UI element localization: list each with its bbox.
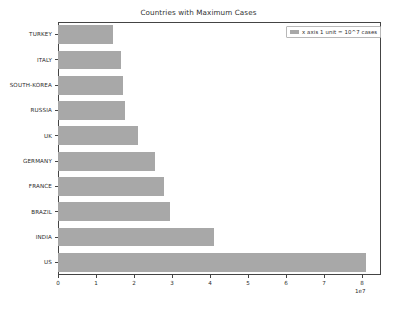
x-tick-mark — [248, 275, 249, 278]
y-tick-mark — [55, 211, 58, 212]
y-tick-mark — [55, 237, 58, 238]
y-tick-mark — [55, 186, 58, 187]
y-tick-mark — [55, 85, 58, 86]
y-tick-label-india: INDIA — [0, 234, 52, 240]
x-tick-label-6: 6 — [276, 280, 296, 286]
y-tick-label-us: US — [0, 259, 52, 265]
x-tick-mark — [58, 275, 59, 278]
y-tick-mark — [55, 34, 58, 35]
x-tick-mark — [362, 275, 363, 278]
x-tick-label-0: 0 — [48, 280, 68, 286]
x-tick-label-4: 4 — [200, 280, 220, 286]
y-tick-label-russia: RUSSIA — [0, 107, 52, 113]
chart-legend: x axis 1 unit = 10^7 cases — [286, 26, 381, 38]
x-tick-mark — [172, 275, 173, 278]
x-tick-label-5: 5 — [238, 280, 258, 286]
y-tick-mark — [55, 110, 58, 111]
y-tick-label-germany: GERMANY — [0, 158, 52, 164]
legend-swatch-icon — [290, 30, 299, 34]
chart-title: Countries with Maximum Cases — [0, 8, 397, 17]
y-tick-label-uk: UK — [0, 133, 52, 139]
x-tick-mark — [210, 275, 211, 278]
y-tick-label-italy: ITALY — [0, 57, 52, 63]
x-tick-label-2: 2 — [124, 280, 144, 286]
chart-figure: Countries with Maximum Cases TURKEYITALY… — [0, 0, 397, 311]
y-tick-mark — [55, 59, 58, 60]
y-tick-mark — [55, 262, 58, 263]
x-tick-mark — [96, 275, 97, 278]
x-tick-label-7: 7 — [314, 280, 334, 286]
x-tick-label-8: 8 — [352, 280, 372, 286]
x-axis-offset-label: 1e7 — [355, 288, 366, 294]
x-tick-mark — [286, 275, 287, 278]
x-tick-mark — [134, 275, 135, 278]
y-tick-mark — [55, 135, 58, 136]
x-tick-label-1: 1 — [86, 280, 106, 286]
y-tick-label-france: FRANCE — [0, 183, 52, 189]
x-tick-label-3: 3 — [162, 280, 182, 286]
y-tick-label-turkey: TURKEY — [0, 31, 52, 37]
y-tick-mark — [55, 161, 58, 162]
y-tick-label-south-korea: SOUTH-KOREA — [0, 82, 52, 88]
x-tick-mark — [324, 275, 325, 278]
legend-label: x axis 1 unit = 10^7 cases — [302, 29, 377, 35]
y-tick-label-brazil: BRAZIL — [0, 209, 52, 215]
plot-area — [58, 22, 381, 275]
